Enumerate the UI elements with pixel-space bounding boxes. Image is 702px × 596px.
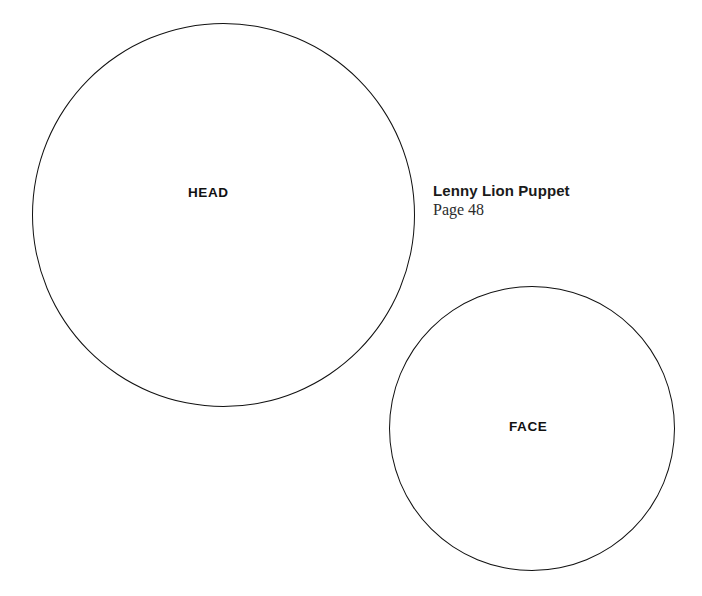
- pattern-template-page: HEAD FACE Lenny Lion Puppet Page 48: [0, 0, 702, 596]
- pattern-piece-head-outline: [32, 23, 415, 407]
- pattern-piece-face-label: FACE: [509, 420, 547, 434]
- caption-block: Lenny Lion Puppet Page 48: [433, 181, 663, 219]
- project-title: Lenny Lion Puppet: [433, 181, 663, 200]
- page-reference: Page 48: [433, 200, 663, 219]
- pattern-piece-head-label: HEAD: [188, 186, 229, 200]
